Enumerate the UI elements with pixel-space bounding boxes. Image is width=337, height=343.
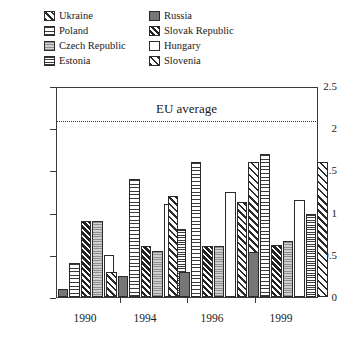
x-tick-label-1999: 1999	[256, 312, 306, 324]
x-tick-mark	[255, 298, 256, 303]
bar-czech-1994	[152, 251, 163, 297]
legend-item-poland: Poland	[44, 25, 149, 36]
bar-slovak-1999	[271, 245, 282, 297]
legend-label-slovak: Slovak Republic	[164, 25, 234, 36]
chart-legend: UkraineRussiaPolandSlovak RepublicCzech …	[44, 10, 294, 66]
legend-item-czech: Czech Republic	[44, 40, 149, 51]
bar-ukraine-1999	[237, 202, 248, 297]
x-tick-label-1996: 1996	[187, 312, 237, 324]
x-tick-label-1990: 1990	[60, 312, 110, 324]
legend-swatch-hungary-icon	[149, 41, 160, 51]
bar-czech-1996	[214, 246, 225, 297]
legend-item-slovenia: Slovenia	[149, 55, 294, 66]
bar-slovenia-1999	[317, 162, 328, 297]
x-tick-mark	[187, 298, 188, 303]
bar-poland-1996	[191, 162, 202, 297]
bar-slovak-1990	[81, 221, 92, 297]
bar-poland-1994	[129, 179, 140, 297]
legend-swatch-slovenia-icon	[149, 56, 160, 66]
legend-swatch-estonia-icon	[44, 56, 55, 66]
x-tick-label-1994: 1994	[120, 312, 170, 324]
eu-average-label: EU average	[57, 102, 316, 116]
bar-czech-1990	[92, 221, 103, 297]
legend-swatch-slovak-icon	[149, 26, 160, 36]
plot-top-rule	[56, 87, 318, 88]
legend-label-czech: Czech Republic	[59, 40, 126, 51]
bar-czech-1999	[283, 241, 294, 297]
bar-russia-1996	[179, 272, 190, 297]
legend-label-slovenia: Slovenia	[164, 55, 201, 66]
legend-swatch-ukraine-icon	[44, 11, 55, 21]
bar-ukraine-1996	[168, 196, 179, 297]
bar-russia-1990	[58, 289, 69, 297]
bar-russia-1999	[248, 252, 259, 297]
plot-area: EU average	[56, 87, 318, 298]
legend-swatch-russia-icon	[149, 11, 160, 21]
x-tick-mark	[120, 298, 121, 303]
eu-average-line	[57, 121, 316, 122]
legend-item-estonia: Estonia	[44, 55, 149, 66]
bar-slovak-1994	[141, 246, 152, 297]
legend-swatch-czech-icon	[44, 41, 55, 51]
legend-swatch-poland-icon	[44, 26, 55, 36]
legend-item-russia: Russia	[149, 10, 294, 21]
legend-item-ukraine: Ukraine	[44, 10, 149, 21]
bar-poland-1990	[69, 263, 80, 297]
legend-label-russia: Russia	[164, 10, 192, 21]
bar-group-1999	[237, 86, 328, 297]
legend-item-slovak: Slovak Republic	[149, 25, 294, 36]
bar-slovak-1996	[202, 246, 213, 297]
legend-label-hungary: Hungary	[164, 40, 201, 51]
bar-hungary-1996	[225, 192, 236, 298]
bar-estonia-1999	[306, 214, 317, 297]
bar-poland-1999	[260, 154, 271, 297]
legend-item-hungary: Hungary	[149, 40, 294, 51]
chart-figure: UkraineRussiaPolandSlovak RepublicCzech …	[0, 0, 337, 343]
legend-label-poland: Poland	[59, 25, 88, 36]
legend-label-ukraine: Ukraine	[59, 10, 93, 21]
y-tick-mark	[50, 298, 56, 299]
bar-russia-1994	[118, 276, 129, 297]
bar-ukraine-1994	[106, 272, 117, 297]
bar-hungary-1999	[294, 200, 305, 297]
legend-label-estonia: Estonia	[59, 55, 91, 66]
